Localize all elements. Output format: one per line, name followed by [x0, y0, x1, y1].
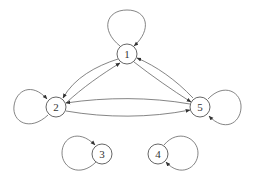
edge-1-to-5 [134, 62, 191, 102]
edge-5-to-2 [66, 99, 190, 104]
node-4-label: 4 [155, 148, 161, 160]
self-loop-2 [14, 90, 48, 124]
node-5: 5 [190, 97, 210, 117]
edge-2-to-5 [66, 110, 190, 116]
self-loop-3 [62, 136, 96, 170]
node-2: 2 [46, 97, 66, 117]
node-4: 4 [148, 144, 168, 164]
node-5-label: 5 [197, 101, 203, 113]
self-loop-1 [108, 10, 146, 46]
edge-1-to-2 [63, 59, 118, 98]
self-loop-5 [208, 90, 241, 125]
node-1: 1 [117, 44, 137, 64]
node-3-label: 3 [99, 148, 105, 160]
graph-canvas: 1 2 3 4 5 [0, 0, 256, 185]
edge-5-to-1 [137, 58, 193, 98]
node-3: 3 [92, 144, 112, 164]
node-2-label: 2 [53, 101, 59, 113]
node-1-label: 1 [124, 48, 130, 60]
graph-diagram: 1 2 3 4 5 [0, 0, 256, 185]
self-loop-4 [164, 136, 198, 170]
